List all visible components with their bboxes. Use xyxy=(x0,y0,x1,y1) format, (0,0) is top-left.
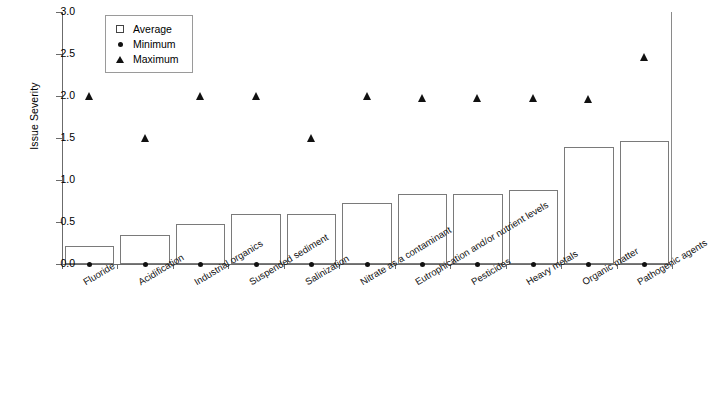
bar xyxy=(342,203,391,264)
bar xyxy=(564,147,613,264)
bar xyxy=(231,214,280,264)
legend-item-average: Average xyxy=(113,22,179,36)
x-tick xyxy=(228,264,229,269)
maximum-point xyxy=(584,95,592,103)
maximum-point xyxy=(85,92,93,100)
y-tick-label: 0.5 xyxy=(35,216,75,226)
maximum-point xyxy=(363,92,371,100)
bar xyxy=(176,224,225,264)
minimum-point xyxy=(586,262,591,267)
bar xyxy=(453,194,502,264)
legend-item-minimum: Minimum xyxy=(113,37,179,51)
y-tick-label: 1.5 xyxy=(35,132,75,142)
bar xyxy=(120,235,169,264)
x-tick xyxy=(395,264,396,269)
chart-legend: Average Minimum Maximum xyxy=(105,15,193,73)
maximum-point xyxy=(307,134,315,142)
maximum-point xyxy=(196,92,204,100)
minimum-point xyxy=(475,262,480,267)
bar xyxy=(509,190,558,264)
minimum-point xyxy=(143,262,148,267)
legend-label: Average xyxy=(133,23,172,35)
minimum-point xyxy=(87,262,92,267)
maximum-point xyxy=(141,134,149,142)
maximum-point xyxy=(473,94,481,102)
maximum-point xyxy=(529,94,537,102)
y-tick-label: 1.0 xyxy=(35,174,75,184)
x-tick xyxy=(117,264,118,269)
filled-triangle-icon xyxy=(113,56,127,63)
minimum-point xyxy=(198,262,203,267)
x-tick xyxy=(561,264,562,269)
minimum-point xyxy=(254,262,259,267)
bar xyxy=(287,214,336,264)
maximum-point xyxy=(640,53,648,61)
bar xyxy=(398,194,447,264)
x-tick xyxy=(339,264,340,269)
bar xyxy=(620,141,669,264)
legend-item-maximum: Maximum xyxy=(113,52,179,66)
minimum-point xyxy=(531,262,536,267)
y-tick-label: 2.0 xyxy=(35,90,75,100)
minimum-point xyxy=(420,262,425,267)
x-tick xyxy=(284,264,285,269)
y-axis-title: Issue Severity xyxy=(28,56,40,176)
maximum-point xyxy=(418,94,426,102)
y-tick-label: 0.0 xyxy=(35,258,75,268)
legend-label: Maximum xyxy=(133,53,179,65)
minimum-point xyxy=(309,262,314,267)
y-tick-label: 3.0 xyxy=(35,6,75,16)
filled-circle-icon xyxy=(113,42,127,47)
x-tick xyxy=(173,264,174,269)
y-tick-label: 2.5 xyxy=(35,48,75,58)
x-tick xyxy=(672,264,673,269)
x-tick xyxy=(506,264,507,269)
minimum-point xyxy=(365,262,370,267)
maximum-point xyxy=(252,92,260,100)
legend-label: Minimum xyxy=(133,38,176,50)
open-square-icon xyxy=(113,25,127,33)
right-border-line xyxy=(671,12,672,265)
minimum-point xyxy=(642,262,647,267)
x-tick xyxy=(617,264,618,269)
x-tick xyxy=(450,264,451,269)
